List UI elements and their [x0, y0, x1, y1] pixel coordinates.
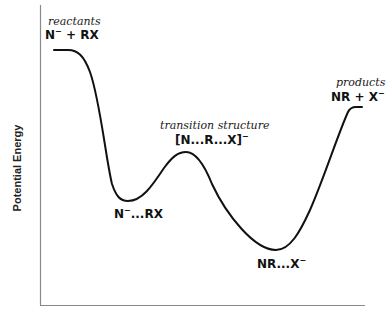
intermediate2-formula: NR...X−	[257, 256, 306, 271]
transition-caption: transition structure	[160, 119, 270, 132]
products-formula: NR + X−	[331, 89, 385, 104]
y-axis-label: Potential Energy	[11, 124, 23, 212]
reactants-formula: N− + RX	[45, 27, 99, 42]
intermediate1-formula: N−...RX	[114, 206, 164, 221]
transition-formula: [N...R...X]−	[175, 132, 249, 147]
products-caption: products	[336, 76, 386, 89]
energy-curve	[54, 50, 362, 250]
energy-diagram: Potential Energy reactants N− + RX N−...…	[0, 0, 388, 314]
